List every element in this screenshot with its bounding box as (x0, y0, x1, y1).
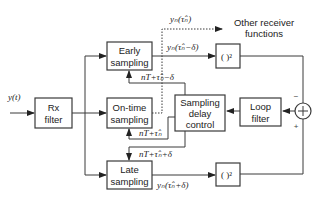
early-output-label: yₙ(τ̂ₙ−δ) (166, 42, 198, 52)
svg-text:delay: delay (189, 108, 212, 119)
square-bottom-block: ( )² (216, 163, 240, 186)
ontime-output-label: yₙ(τ̂ₙ) (169, 14, 191, 24)
svg-text:sampling: sampling (110, 114, 148, 125)
late-sampling-block: Late sampling (107, 161, 152, 189)
svg-text:( )²: ( )² (221, 170, 232, 180)
square-top-block: ( )² (216, 44, 240, 68)
late-output-label: yₙ(τ̂ₙ+δ) (156, 180, 188, 190)
sampling-delay-control-block: Sampling delay control (175, 95, 225, 131)
svg-text:Late: Late (120, 164, 139, 175)
svg-text:Loop: Loop (250, 101, 271, 112)
svg-text:filter: filter (45, 114, 63, 125)
other-functions-label: Other receiver (234, 17, 294, 28)
summer-plus-sign: + (294, 122, 299, 131)
svg-text:sampling: sampling (110, 57, 148, 68)
rx-filter-block: Rx filter (35, 98, 72, 128)
summer-node (295, 103, 311, 119)
svg-text:filter: filter (252, 113, 270, 124)
loop-filter-block: Loop filter (240, 98, 281, 126)
svg-text:( )²: ( )² (221, 52, 232, 62)
ontime-timing-label: nT+τ̂ₙ (139, 128, 162, 138)
early-timing-label: nT+τ̂ₙ−δ (141, 72, 175, 82)
svg-text:control: control (186, 119, 215, 130)
svg-text:Rx: Rx (48, 102, 60, 113)
summer-minus-sign: − (294, 92, 299, 101)
svg-text:functions: functions (245, 28, 283, 39)
late-timing-label: nT+τ̂ₙ+δ (139, 149, 173, 159)
svg-text:On-time: On-time (113, 102, 147, 113)
svg-text:Early: Early (119, 45, 141, 56)
ontime-sampling-block: On-time sampling (107, 98, 152, 128)
early-sampling-block: Early sampling (107, 42, 152, 70)
timing-sync-diagram: y(t) Rx filter Early sampling On-time sa… (0, 0, 329, 198)
svg-text:Sampling: Sampling (180, 97, 220, 108)
svg-text:sampling: sampling (110, 176, 148, 187)
input-label: y(t) (7, 92, 21, 102)
